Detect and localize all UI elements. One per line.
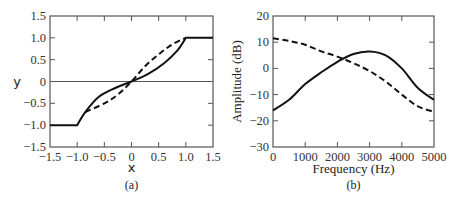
ytick-label: −1.5 (23, 140, 46, 154)
plot-b-ticks (273, 16, 434, 147)
ytick-label: 0.5 (30, 53, 46, 67)
plot-b-frame (273, 16, 434, 147)
ytick-label: 0 (263, 61, 269, 75)
plot-a-dashed-curve (85, 38, 186, 112)
plot-b-panel-label: (b) (347, 178, 361, 192)
plot-a-xlabel: x (128, 160, 136, 175)
ytick-label: −30 (249, 140, 269, 154)
ytick-label: 1.0 (30, 31, 46, 45)
xtick-label: 1.5 (205, 150, 221, 164)
plot-a-panel-label: (a) (125, 178, 138, 192)
plot-a-ytick-labels: 1.51.00.50−0.5−1.0−1.5 (23, 9, 46, 154)
plot-b-xlabel: Frequency (Hz) (313, 161, 395, 176)
figure: −1.5−1.0−0.500.51.01.5 1.51.00.50−0.5−1.… (0, 0, 454, 197)
ytick-label: −10 (249, 88, 269, 102)
xtick-label: −1.0 (66, 150, 89, 164)
plot-b-ylabel: Amplitude (dB) (229, 40, 244, 123)
ytick-label: −20 (249, 114, 269, 128)
xtick-label: 1.0 (178, 150, 194, 164)
ytick-label: 0 (40, 75, 46, 89)
ytick-label: 20 (257, 9, 270, 23)
plot-b: 010002000300040005000 20100−10−20−30 Fre… (229, 9, 447, 192)
plot-a: −1.5−1.0−0.500.51.01.5 1.51.00.50−0.5−1.… (13, 9, 221, 192)
xtick-label: −0.5 (93, 150, 116, 164)
xtick-label: 0 (270, 150, 276, 164)
ytick-label: −0.5 (23, 96, 46, 110)
ytick-label: −1.0 (23, 118, 46, 132)
plot-a-ylabel: y (13, 74, 21, 89)
plot-b-ytick-labels: 20100−10−20−30 (249, 9, 269, 154)
ytick-label: 1.5 (30, 9, 46, 23)
ytick-label: 10 (257, 35, 270, 49)
xtick-label: 5000 (422, 150, 447, 164)
plot-b-dashed-curve (273, 38, 434, 111)
xtick-label: 0.5 (151, 150, 167, 164)
